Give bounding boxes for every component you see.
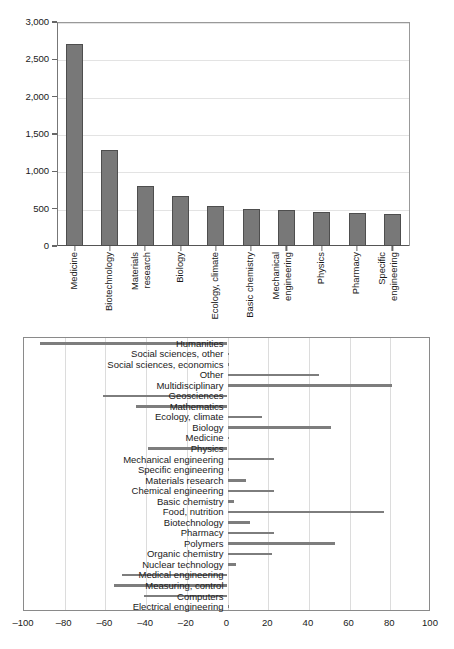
x-label-slot: Mechanicalengineering: [269, 252, 304, 328]
category-label: Biotechnology: [164, 517, 224, 528]
y-tick-label: 2,500: [1, 54, 49, 64]
x-axis-label: Ecology, climate: [209, 252, 221, 326]
chart-row: Chemical engineering: [24, 486, 429, 497]
category-label: Basic chemistry: [157, 496, 224, 507]
x-axis-label: Medicine: [68, 252, 80, 326]
bar-slot: [269, 22, 304, 246]
x-tick-label: 80: [384, 618, 395, 628]
y-tick-label: 500: [1, 204, 49, 214]
bar: [66, 44, 83, 246]
bar: [228, 563, 236, 566]
category-label: Pharmacy: [181, 527, 224, 538]
bar: [228, 532, 275, 535]
category-label: Polymers: [184, 538, 224, 549]
bar-slot: [92, 22, 127, 246]
x-label-slot: Ecology, climate: [198, 252, 233, 328]
bar: [228, 553, 273, 556]
x-tick-mark: [180, 246, 181, 251]
x-tick-label: –100: [12, 618, 33, 628]
x-axis-label-line: Basic chemistry: [244, 252, 256, 326]
bar: [278, 210, 295, 246]
x-label-slot: Materialsresearch: [128, 252, 163, 328]
chart-row: Biotechnology: [24, 517, 429, 528]
x-tick-mark: [251, 246, 252, 251]
x-tick-label: 20: [262, 618, 273, 628]
bar: [101, 150, 118, 246]
x-tick-mark: [74, 246, 75, 251]
category-label: Chemical engineering: [132, 485, 224, 496]
bar: [228, 363, 229, 366]
y-tick-label: 0: [1, 241, 49, 251]
chart-row: Biology: [24, 422, 429, 433]
bar: [228, 490, 275, 493]
category-label: Specific engineering: [138, 464, 224, 475]
chart-row: Materials research: [24, 475, 429, 486]
category-label: Other: [200, 369, 224, 380]
x-axis-label: Biotechnology: [103, 252, 115, 326]
chart-row: Medical engineering: [24, 570, 429, 581]
y-tick-label: 3,000: [1, 17, 49, 27]
category-label: Mathematics: [170, 401, 224, 412]
top-chart-bars: [57, 22, 410, 246]
x-axis-label-line: Pharmacy: [350, 252, 362, 326]
y-tick-label: 1,500: [1, 129, 49, 139]
chart-row: Multidisciplinary: [24, 380, 429, 391]
category-label: Medical engineering: [138, 569, 223, 580]
chart-row: Physics: [24, 443, 429, 454]
x-tick-mark: [215, 246, 216, 251]
bar: [228, 458, 275, 461]
x-axis-label-line: Biotechnology: [103, 252, 115, 326]
x-axis-label: Biology: [174, 252, 186, 326]
bar: [228, 353, 229, 356]
x-label-slot: Medicine: [57, 252, 92, 328]
x-tick-label: 40: [303, 618, 314, 628]
x-tick-mark: [321, 246, 322, 251]
chart-row: Geosciences: [24, 391, 429, 402]
bar-slot: [128, 22, 163, 246]
x-tick-mark: [145, 246, 146, 251]
category-label: Organic chemistry: [147, 548, 224, 559]
chart-row: Social sciences, other: [24, 349, 429, 360]
chart-row: Nuclear technology: [24, 559, 429, 570]
bar: [228, 374, 320, 377]
bar: [228, 500, 234, 503]
chart-row: Organic chemistry: [24, 549, 429, 560]
bar: [228, 416, 263, 419]
x-tick-label: –20: [178, 618, 194, 628]
category-label: Electrical engineering: [133, 601, 224, 612]
category-label: Materials research: [145, 475, 223, 486]
category-label: Social sciences, economics: [107, 359, 223, 370]
bar-slot: [339, 22, 374, 246]
x-label-slot: Pharmacy: [339, 252, 374, 328]
bottom-range-chart: HumanitiesSocial sciences, otherSocial s…: [0, 332, 454, 649]
x-tick-mark: [392, 246, 393, 251]
category-label: Biology: [192, 422, 223, 433]
x-axis-label-line: engineering: [281, 252, 293, 326]
category-label: Ecology, climate: [155, 411, 223, 422]
x-tick-mark: [356, 246, 357, 251]
chart-row: Measuring, control: [24, 580, 429, 591]
bar-slot: [304, 22, 339, 246]
x-axis-label-line: research: [140, 252, 152, 326]
y-tick-label: 1,000: [1, 166, 49, 176]
chart-row: Social sciences, economics: [24, 359, 429, 370]
chart-row: Mathematics: [24, 401, 429, 412]
x-tick-label: 60: [343, 618, 354, 628]
chart-row: Computers: [24, 591, 429, 602]
category-label: Food, nutrition: [163, 506, 224, 517]
bar: [228, 437, 229, 440]
bar: [228, 426, 332, 429]
category-label: Humanities: [176, 338, 224, 349]
category-label: Computers: [177, 591, 223, 602]
bar: [172, 196, 189, 246]
bar: [137, 186, 154, 246]
bar-slot: [198, 22, 233, 246]
category-label: Physics: [191, 443, 224, 454]
x-tick-label: –60: [96, 618, 112, 628]
category-label: Social sciences, other: [131, 348, 223, 359]
chart-row: Mechanical engineering: [24, 454, 429, 465]
bar: [207, 206, 224, 246]
bar: [313, 212, 330, 246]
category-label: Medicine: [185, 432, 223, 443]
x-label-slot: Physics: [304, 252, 339, 328]
